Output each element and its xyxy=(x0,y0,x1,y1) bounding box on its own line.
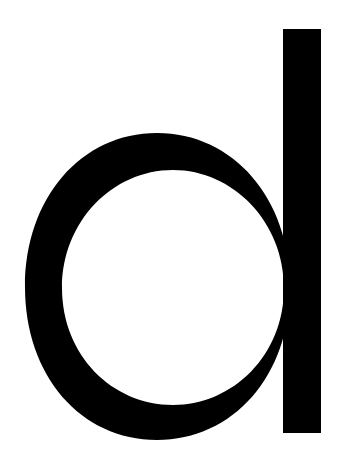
letter-d-glyph xyxy=(0,0,339,464)
glyph-bowl xyxy=(25,133,290,440)
glyph-stem xyxy=(283,29,321,433)
